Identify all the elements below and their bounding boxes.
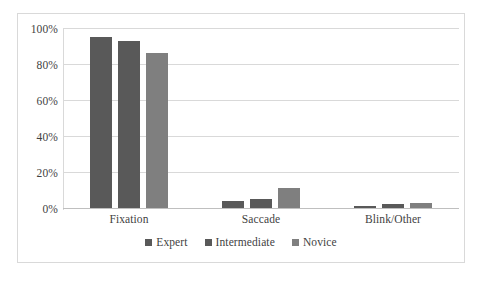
legend-swatch-icon bbox=[205, 239, 212, 246]
legend-entry[interactable]: Expert bbox=[145, 236, 187, 248]
bar[interactable] bbox=[278, 188, 300, 208]
x-axis-tick-label: Saccade bbox=[242, 213, 280, 225]
legend-label: Novice bbox=[303, 236, 337, 248]
legend-entry[interactable]: Intermediate bbox=[205, 236, 275, 248]
bar-group bbox=[195, 29, 327, 208]
x-axis-tick-labels: FixationSaccadeBlink/Other bbox=[63, 211, 459, 231]
plot-area bbox=[63, 29, 459, 209]
bar[interactable] bbox=[90, 37, 112, 208]
y-axis-tick-label: 60% bbox=[37, 95, 58, 107]
bar[interactable] bbox=[250, 199, 272, 208]
y-axis-tick-label: 80% bbox=[37, 59, 58, 71]
y-axis-tick-label: 40% bbox=[37, 131, 58, 143]
legend-swatch-icon bbox=[145, 239, 152, 246]
x-axis-tick-label: Blink/Other bbox=[365, 213, 421, 225]
chart-figure: 0%20%40%60%80%100% FixationSaccadeBlink/… bbox=[17, 13, 465, 263]
bar-group bbox=[327, 29, 459, 208]
bar[interactable] bbox=[222, 201, 244, 208]
legend-swatch-icon bbox=[292, 239, 299, 246]
bars-layer bbox=[63, 29, 459, 209]
y-axis-tick-label: 100% bbox=[31, 23, 58, 35]
bar[interactable] bbox=[382, 204, 404, 208]
y-axis-tick-label: 20% bbox=[37, 167, 58, 179]
bar[interactable] bbox=[118, 41, 140, 208]
legend-label: Intermediate bbox=[216, 236, 275, 248]
y-axis-tick-labels: 0%20%40%60%80%100% bbox=[18, 14, 62, 214]
chart-legend: ExpertIntermediateNovice bbox=[18, 236, 464, 248]
bar[interactable] bbox=[410, 203, 432, 208]
bar[interactable] bbox=[354, 206, 376, 208]
plot-wrapper: 0%20%40%60%80%100% FixationSaccadeBlink/… bbox=[18, 14, 464, 262]
legend-label: Expert bbox=[156, 236, 187, 248]
bar-group bbox=[63, 29, 195, 208]
y-axis-tick-label: 0% bbox=[42, 203, 58, 215]
x-axis-tick-label: Fixation bbox=[109, 213, 148, 225]
bar[interactable] bbox=[146, 53, 168, 208]
legend-entry[interactable]: Novice bbox=[292, 236, 337, 248]
